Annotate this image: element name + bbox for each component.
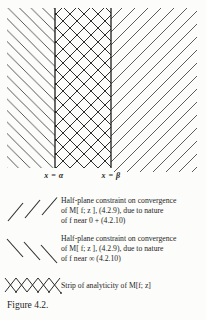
figure-caption: Figure 4.2.	[7, 300, 48, 310]
right-halfplane-hatch-region	[111, 8, 197, 172]
back-slash-hatch-icon	[4, 237, 60, 265]
legend-text-near-infinity: Half-plane constraint on convergence of …	[61, 234, 204, 264]
forward-slash-hatch-icon	[4, 197, 60, 223]
legend-text-near-zero: Half-plane constraint on convergence of …	[61, 196, 204, 226]
analyticity-strip-region	[55, 8, 111, 168]
legend-line: of f near ∞ (4.2.10)	[61, 254, 204, 264]
alpha-axis-label: x = α	[37, 171, 71, 180]
legend-line: of f near 0 + (4.2.10)	[61, 216, 204, 226]
legend-line: Half-plane constraint on convergence	[61, 234, 204, 244]
cross-hatch-icon	[4, 275, 66, 299]
legend-line: Half-plane constraint on convergence	[61, 196, 204, 206]
strip-diagram	[0, 0, 206, 186]
legend-text-strip: Strip of analyticity of M[f; z]	[61, 281, 204, 291]
legend-line: Strip of analyticity of M[f; z]	[61, 281, 204, 291]
legend-line: of M[ f; z ], (4.2.9), due to nature	[61, 244, 204, 254]
left-halfplane-hatch-region	[7, 8, 55, 168]
beta-axis-label: x = β	[94, 171, 128, 180]
legend-line: of M[ f; z ], (4.2.9), due to nature	[61, 206, 204, 216]
figure-page: x = α x = β Half-plane constraint on con…	[0, 0, 206, 320]
